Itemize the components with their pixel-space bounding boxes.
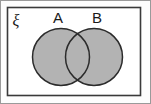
venn-diagram-canvas: ξ A B — [0, 0, 151, 104]
venn-diagram-figure: ξ A B — [0, 0, 151, 104]
xi-universal-set-symbol: ξ — [13, 12, 20, 29]
set-a-label: A — [53, 9, 63, 26]
set-b-label: B — [92, 9, 102, 26]
